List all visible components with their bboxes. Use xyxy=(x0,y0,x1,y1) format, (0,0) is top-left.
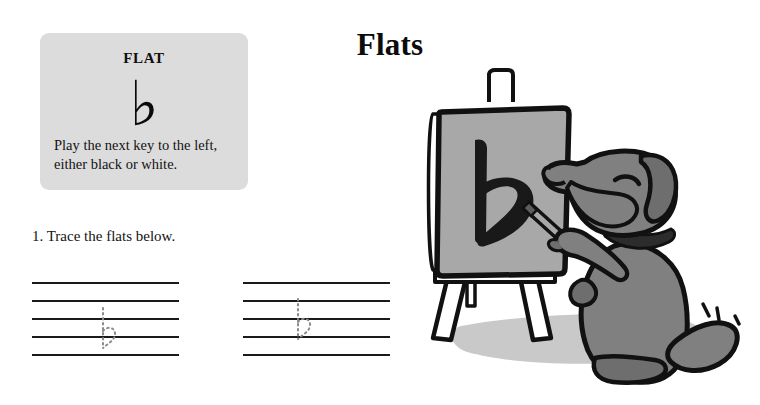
flat-symbol-container: ♭ xyxy=(40,75,248,133)
staff-line xyxy=(243,354,390,356)
staff-line xyxy=(32,282,179,284)
trace-flat-glyph-space[interactable] xyxy=(98,307,120,353)
staff-line xyxy=(243,300,390,302)
dog-hind-leg xyxy=(594,356,666,383)
space-flat-staff: space flat xyxy=(32,278,179,363)
staff-line xyxy=(243,336,390,338)
staff-line xyxy=(243,282,390,284)
staff-line xyxy=(243,318,390,320)
dog-paw xyxy=(570,280,596,306)
flat-card-description: Play the next key to the left, either bl… xyxy=(54,136,240,173)
staff-line xyxy=(32,300,179,302)
canvas xyxy=(437,108,569,276)
easel-back-post xyxy=(489,70,513,102)
dog-painting-flat-illustration xyxy=(405,68,760,405)
flat-symbol-icon: ♭ xyxy=(129,75,158,133)
exercise-instruction: 1. Trace the flats below. xyxy=(32,228,175,245)
staff-line xyxy=(32,354,179,356)
trace-flat-glyph-line[interactable] xyxy=(293,298,315,344)
staff-lines xyxy=(243,278,390,356)
flat-definition-card: FLAT ♭ Play the next key to the left, ei… xyxy=(40,33,248,190)
flat-card-heading: FLAT xyxy=(40,50,248,67)
page-title: Flats xyxy=(305,27,475,63)
line-flat-staff: line flat xyxy=(243,278,390,363)
